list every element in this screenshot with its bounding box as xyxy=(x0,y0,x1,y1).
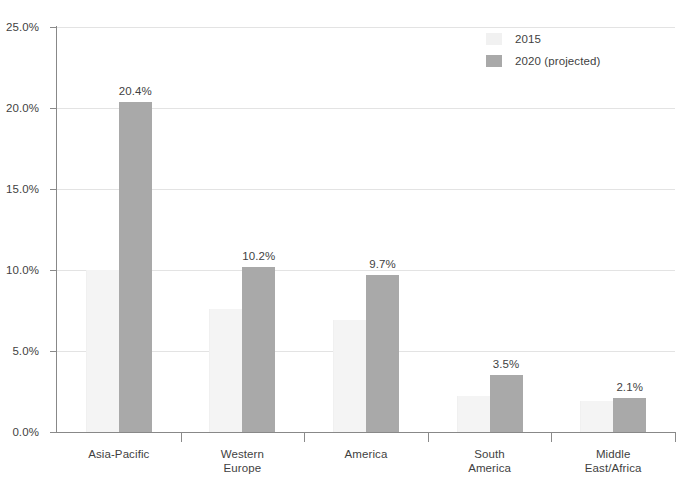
bar-2015 xyxy=(209,309,243,432)
y-axis-tick-mark xyxy=(50,351,56,352)
bar-chart: 20.4%10.2%9.7%3.5%2.1% 25.0%20.0%15.0%10… xyxy=(0,0,684,478)
category-label: Asia-Pacific xyxy=(57,447,181,461)
y-axis-tick-label: 10.0% xyxy=(6,264,39,276)
bar-group: 20.4% xyxy=(57,27,181,432)
x-axis-line xyxy=(56,432,675,433)
bar-2015 xyxy=(457,396,491,432)
y-axis-tick-label: 25.0% xyxy=(6,21,39,33)
y-axis-tick-label: 20.0% xyxy=(6,102,39,114)
plot-area: 20.4%10.2%9.7%3.5%2.1% xyxy=(57,27,675,432)
light-swatch-icon xyxy=(486,33,502,45)
bar-2020-projected-: 2.1% xyxy=(613,398,646,432)
x-axis-tick-mark xyxy=(304,432,305,442)
bar-2020-projected-: 20.4% xyxy=(119,102,152,432)
y-axis-tick-label: 0.0% xyxy=(12,426,39,438)
chart-legend: 20152020 (projected) xyxy=(486,28,600,72)
x-axis-tick-mark xyxy=(428,432,429,442)
bar-group: 9.7% xyxy=(304,27,428,432)
bar-group: 3.5% xyxy=(428,27,552,432)
legend-item: 2015 xyxy=(486,28,600,50)
bar-value-label: 9.7% xyxy=(369,258,396,270)
bar-2020-projected-: 9.7% xyxy=(366,275,399,432)
cropped-caption-artifact xyxy=(0,468,684,478)
x-axis-tick-mark xyxy=(675,432,676,442)
legend-item-label: 2020 (projected) xyxy=(515,55,600,67)
y-axis-tick-mark xyxy=(50,270,56,271)
bar-2020-projected-: 3.5% xyxy=(490,375,523,432)
bar-group: 10.2% xyxy=(181,27,305,432)
x-axis-tick-mark xyxy=(551,432,552,442)
bar-value-label: 2.1% xyxy=(616,381,643,393)
bar-value-label: 20.4% xyxy=(119,85,152,97)
legend-item-label: 2015 xyxy=(515,33,541,45)
bar-group: 2.1% xyxy=(551,27,675,432)
y-axis-tick-label: 15.0% xyxy=(6,183,39,195)
y-axis-tick-label: 5.0% xyxy=(12,345,39,357)
y-axis-tick-mark xyxy=(50,108,56,109)
bar-2020-projected-: 10.2% xyxy=(242,267,275,432)
bar-2015 xyxy=(333,320,367,432)
bar-2015 xyxy=(580,401,614,432)
bar-2015 xyxy=(86,270,120,432)
y-axis-tick-mark xyxy=(50,189,56,190)
category-label: America xyxy=(304,447,428,461)
y-axis-tick-mark xyxy=(50,27,56,28)
x-axis-tick-mark xyxy=(181,432,182,442)
gray-swatch-icon xyxy=(486,55,502,67)
bar-value-label: 10.2% xyxy=(242,250,275,262)
legend-item: 2020 (projected) xyxy=(486,50,600,72)
bar-value-label: 3.5% xyxy=(493,358,520,370)
y-axis-tick-mark xyxy=(50,432,56,433)
